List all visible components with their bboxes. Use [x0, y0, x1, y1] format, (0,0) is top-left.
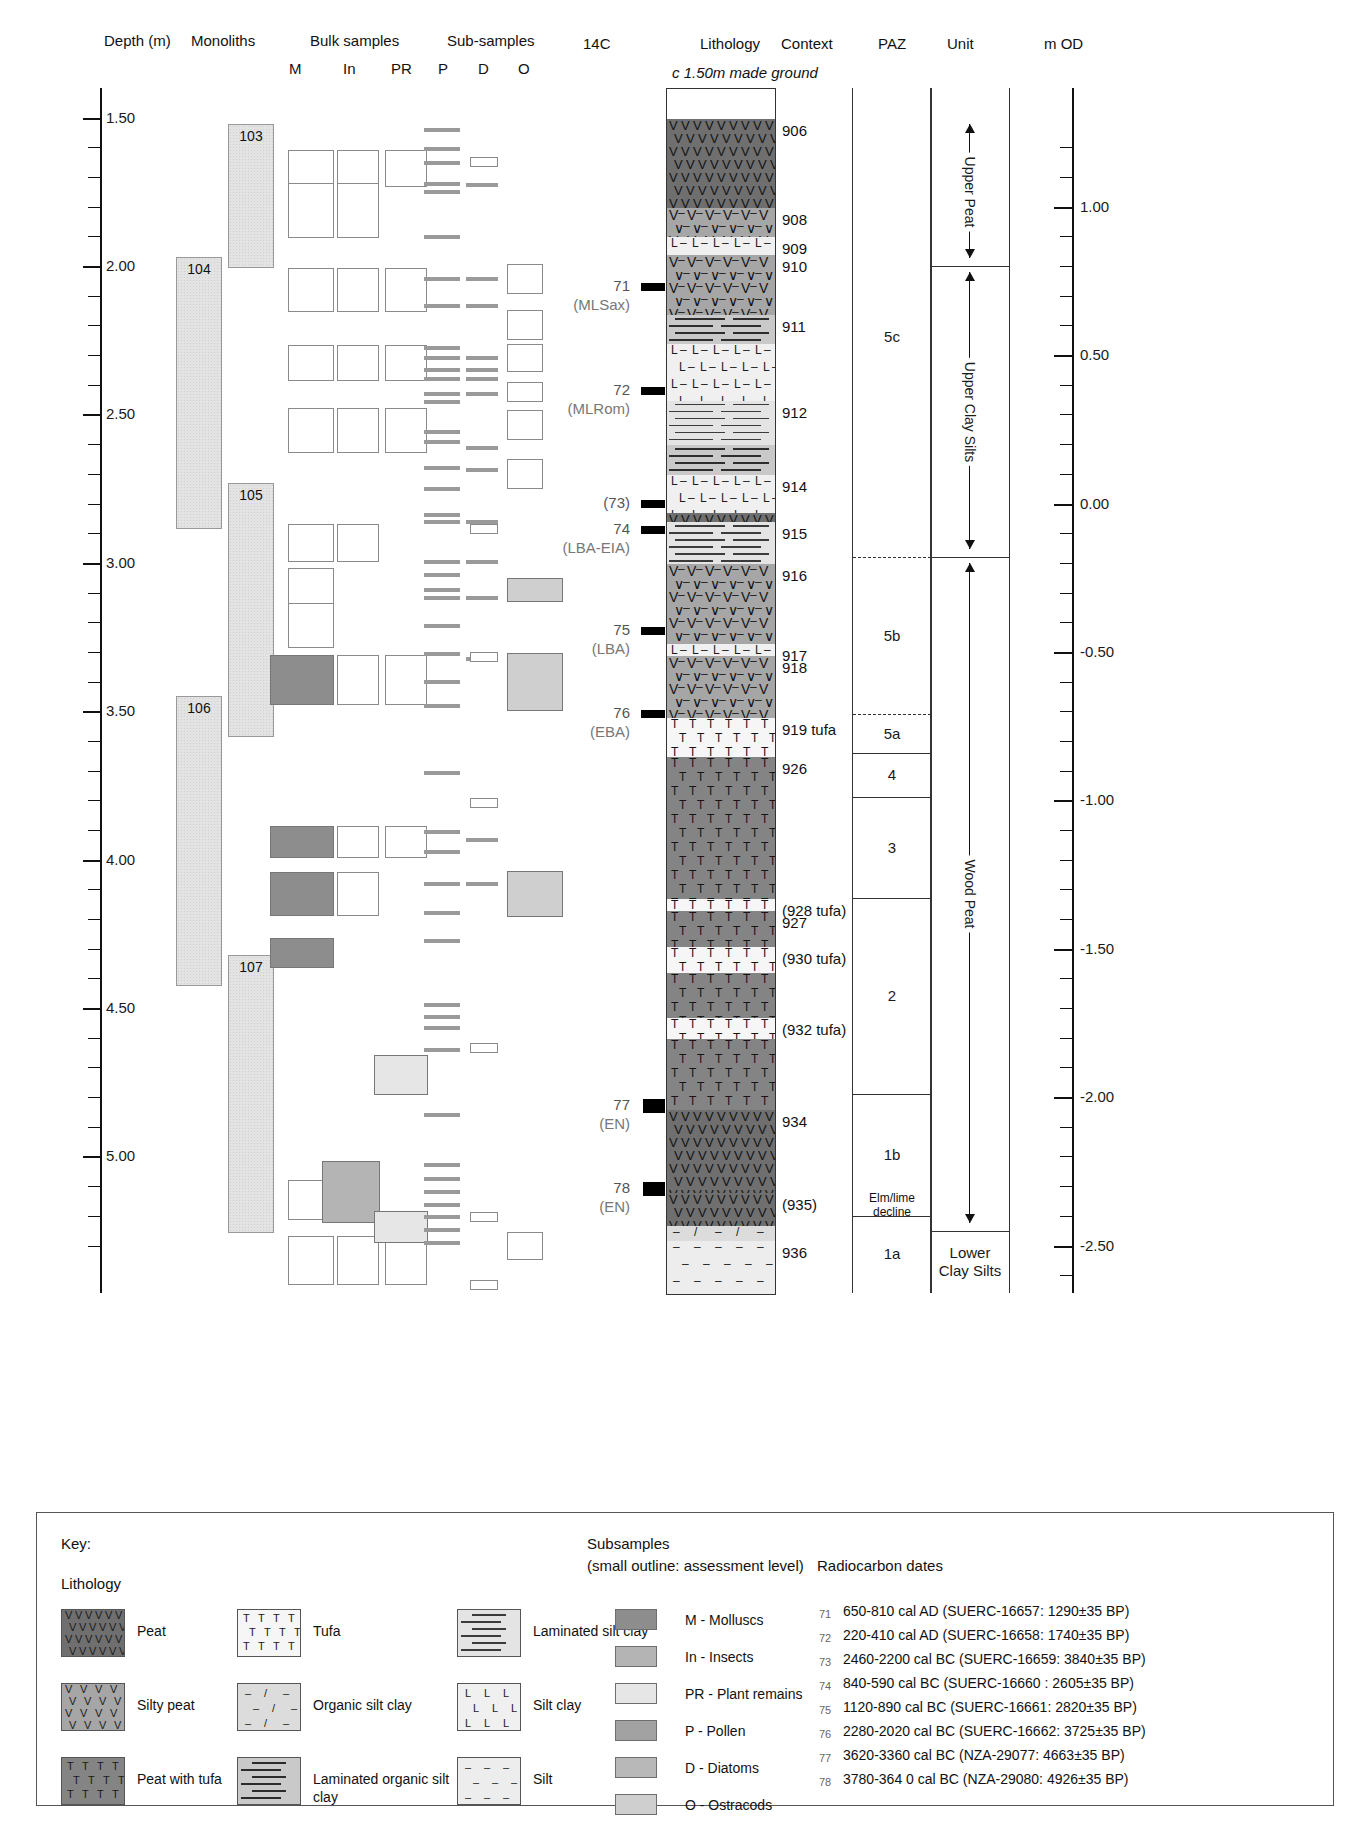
lithology-glyph: T [689, 841, 696, 853]
depth-tick-label: 3.00 [106, 554, 135, 571]
paz-annotation-wrap: Elm/lime decline [853, 1192, 931, 1220]
mod-tick [1060, 741, 1072, 742]
key-glyph: V [99, 1696, 106, 1707]
key-glyph: V [84, 1720, 91, 1731]
key-label: Silt [533, 1771, 693, 1789]
sample-box [270, 655, 334, 705]
paz-label: 3 [853, 839, 931, 856]
mod-axis: 1.000.500.00-0.50-1.00-1.50-2.00-2.50 [1072, 88, 1074, 1293]
lithology-glyph: V [717, 119, 726, 132]
lithology-glyph: T [743, 1001, 750, 1013]
context-label: 910 [782, 258, 807, 275]
lithology-glyph: T [725, 1095, 732, 1107]
lithology-glyph: T [743, 1095, 750, 1107]
lithology-glyph: V [681, 145, 690, 158]
lithology-glyph: V [758, 132, 767, 145]
diatom-outline [470, 157, 498, 167]
lamination-line [669, 532, 713, 534]
lithology-layer: VVVVVVVVVVVVVVVVVVVVVVVVVVVVVVVVVVVVVVVV… [667, 1110, 775, 1194]
lamination-line [669, 469, 713, 471]
lithology-glyph: – [757, 1226, 764, 1238]
lithology-layer: TTTTTTTTTTTTTTTTTTTTTTTTTTTTTTTTTTTTTTTT… [667, 757, 775, 900]
monolith: 106 [176, 696, 222, 986]
lithology-glyph: L [755, 378, 762, 390]
lithology-layer [667, 445, 775, 476]
lamination-line [733, 318, 769, 320]
key-glyph: V [69, 1696, 76, 1707]
lithology-glyph: – [678, 589, 685, 601]
mod-tick-label: 1.00 [1080, 198, 1109, 215]
mod-tick [1060, 889, 1072, 890]
depth-tick [88, 325, 100, 326]
lithology-glyph: – [732, 707, 739, 719]
lithology-glyph: – [732, 615, 739, 627]
key-swatch: TTTTTTTTTTTT [61, 1757, 125, 1805]
lithology-glyph: L [713, 237, 720, 249]
key-glyph: V [99, 1622, 106, 1633]
c14-era: (EBA) [540, 723, 630, 740]
lamination-line [675, 525, 725, 527]
lithology-glyph: L [713, 644, 720, 656]
mod-tick [1060, 860, 1072, 861]
lithology-glyph: – [715, 1241, 722, 1253]
sample-box [337, 408, 379, 453]
key-glyph: T [97, 1761, 104, 1772]
lithology-glyph: V [686, 132, 695, 145]
column-letter-in: In [343, 60, 356, 77]
depth-tick [88, 978, 100, 979]
lamination-line [675, 448, 725, 450]
lithology-glyph: V [765, 171, 774, 184]
lamination-line [721, 325, 761, 327]
lithology-glyph: – [683, 668, 690, 680]
lithology-glyph: V [698, 158, 707, 171]
lithology-glyph: L [734, 475, 741, 487]
header-depth: Depth (m) [104, 32, 171, 49]
lithology-glyph: V [741, 171, 750, 184]
lithology-glyph: L [755, 644, 762, 656]
lithology-glyph: T [689, 1067, 696, 1079]
lithology-glyph: T [761, 911, 768, 923]
lithology-glyph: T [725, 1039, 732, 1051]
key-glyph: V [99, 1646, 106, 1657]
sample-box [288, 268, 334, 312]
lithology-glyph: T [761, 1095, 768, 1107]
sample-box [322, 1161, 380, 1223]
lithology-glyph: T [707, 813, 714, 825]
lithology-layer: VVVVVVVVVVVVVVVVVVVVVVVVVVVVVVVVVVVVVVVV… [667, 119, 775, 209]
pollen-bar [424, 771, 460, 775]
unit-label: Wood Peat [960, 855, 980, 932]
mod-tick-label: -0.50 [1080, 643, 1114, 660]
lithology-glyph: T [689, 911, 696, 923]
lithology-glyph: – [737, 668, 744, 680]
radiocarbon-text: 3620-3360 cal BC (NZA-29077: 4663±35 BP) [843, 1747, 1125, 1763]
lithology-glyph: T [761, 757, 768, 769]
lithology-glyph: V [765, 145, 774, 158]
lithology-glyph: – [701, 220, 708, 232]
pollen-bar [424, 1113, 460, 1117]
lithology-glyph: T [671, 1018, 678, 1030]
key-glyph: T [118, 1775, 125, 1786]
paz-label: 5a [853, 725, 931, 742]
key-glyph: T [112, 1789, 119, 1800]
context-label: 934 [782, 1113, 807, 1130]
lithology-glyph: – [703, 1292, 710, 1294]
lithology-glyph: T [725, 973, 732, 985]
key-glyph: – [473, 1777, 479, 1788]
lithology-glyph: V [722, 158, 731, 171]
sample-box [288, 408, 334, 453]
diatom-outline [470, 798, 498, 808]
lithology-glyph: T [707, 1001, 714, 1013]
lithology-glyph: L [755, 344, 762, 356]
mod-tick [1060, 978, 1072, 979]
depth-tick [88, 1186, 100, 1187]
lithology-glyph: T [679, 987, 686, 999]
key-glyph: V [105, 1610, 112, 1621]
depth-tick [88, 800, 100, 801]
key-glyph: T [82, 1789, 89, 1800]
key-subsample-label: O - Ostracods [685, 1797, 772, 1815]
sample-box [270, 872, 334, 916]
depth-tick-label: 2.00 [106, 257, 135, 274]
lithology-glyph: T [697, 799, 704, 811]
lithology-glyph: – [683, 694, 690, 706]
lithology-glyph: T [671, 911, 678, 923]
